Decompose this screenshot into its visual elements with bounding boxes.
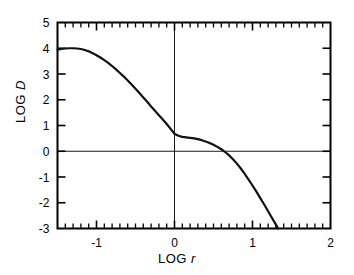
zero-reference-lines xyxy=(58,23,331,229)
x-axis-label: LOG r xyxy=(0,251,354,266)
plot-area: -3-2-1012345-1012 xyxy=(0,0,354,275)
y-tick-label: -3 xyxy=(39,222,50,236)
y-tick-label: -1 xyxy=(39,171,50,185)
y-tick-label: 4 xyxy=(43,42,50,56)
x-axis-label-variable: r xyxy=(191,251,196,266)
data-curve xyxy=(58,48,279,228)
chart-figure: LOG D LOG r -3-2-1012345-1012 xyxy=(0,0,354,275)
y-tick-label: -2 xyxy=(39,196,50,210)
curve-path xyxy=(58,48,279,228)
y-tick-label: 2 xyxy=(43,93,50,107)
y-tick-label: 1 xyxy=(43,119,50,133)
x-tick-label: -1 xyxy=(91,236,102,250)
y-tick-label: 5 xyxy=(43,16,50,30)
y-axis-label: LOG D xyxy=(13,62,28,142)
axis-ticks xyxy=(58,23,331,229)
x-tick-label: 2 xyxy=(327,236,334,250)
axis-frame xyxy=(58,23,331,229)
y-tick-label: 3 xyxy=(43,68,50,82)
x-tick-label: 0 xyxy=(171,236,178,250)
x-axis-label-text: LOG xyxy=(158,251,191,266)
y-tick-label: 0 xyxy=(43,145,50,159)
plot-frame xyxy=(58,23,331,229)
x-tick-label: 1 xyxy=(249,236,256,250)
y-axis-label-text: LOG xyxy=(13,90,28,123)
y-axis-label-variable: D xyxy=(13,80,28,90)
axis-tick-labels: -3-2-1012345-1012 xyxy=(39,16,334,250)
